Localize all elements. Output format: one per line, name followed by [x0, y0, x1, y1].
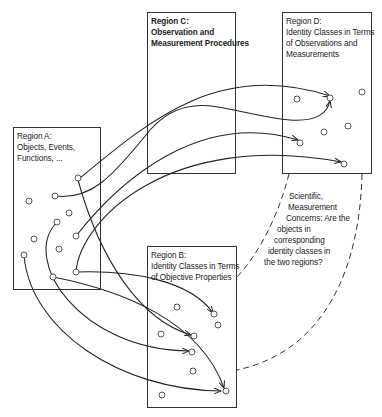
svg-text:Objects, Events,: Objects, Events, [17, 143, 75, 152]
svg-text:Scientific,: Scientific, [289, 192, 323, 201]
svg-text:Concerns: Are the: Concerns: Are the [286, 214, 350, 223]
region-a-points [21, 175, 81, 280]
svg-text:Observation and: Observation and [151, 28, 214, 37]
arrow-a-to-d-2 [55, 101, 330, 196]
identity-classes-diagram: Region A: Objects, Events, Functions, ..… [0, 0, 382, 417]
svg-text:Measurement Procedures: Measurement Procedures [151, 39, 249, 48]
arrow-a-to-d-3 [76, 133, 298, 236]
svg-text:Measurement: Measurement [288, 203, 338, 212]
svg-text:Functions, ...: Functions, ... [17, 154, 62, 163]
region-b-label: Region B: Identity Classes in Terms of O… [151, 251, 239, 282]
svg-text:Region C:: Region C: [151, 17, 189, 26]
svg-text:Region A:: Region A: [17, 132, 52, 141]
arrow-a-to-d-1 [80, 85, 330, 178]
svg-text:Region D:: Region D: [286, 17, 322, 26]
region-b-points [158, 304, 229, 398]
svg-text:objects in: objects in [277, 225, 311, 234]
svg-text:Region B:: Region B: [151, 251, 186, 260]
arrow-a-to-b-3 [53, 277, 224, 388]
svg-text:the two regions?: the two regions? [264, 258, 323, 267]
measurement-concern-note: Scientific, Measurement Concerns: Are th… [264, 192, 350, 267]
region-c-label: Region C: Observation and Measurement Pr… [151, 17, 249, 48]
region-d-label: Region D: Identity Classes in Terms of O… [286, 17, 374, 59]
svg-text:of Observations and: of Observations and [286, 39, 358, 48]
svg-text:Identity Classes in Terms: Identity Classes in Terms [286, 28, 374, 37]
svg-text:identity classes in: identity classes in [268, 247, 331, 256]
svg-text:Identity Classes in Terms: Identity Classes in Terms [151, 262, 239, 271]
region-d-points [294, 89, 365, 167]
region-a-label: Region A: Objects, Events, Functions, ..… [17, 132, 75, 163]
arrow-a-to-b-4 [46, 222, 189, 351]
svg-text:of Objective Properties: of Objective Properties [151, 273, 232, 282]
svg-text:Measurements: Measurements [286, 50, 339, 59]
svg-text:corresponding: corresponding [274, 236, 325, 245]
